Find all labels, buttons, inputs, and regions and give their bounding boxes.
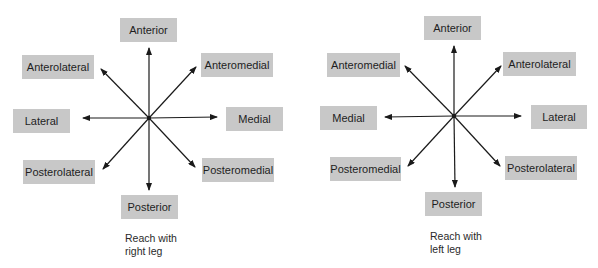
star-excursion-diagram-right-leg: Anterior Anterolateral Anteromedial Late… (0, 0, 299, 268)
label-anteromedial: Anteromedial (201, 53, 273, 77)
label-medial: Medial (320, 106, 377, 130)
arrow-posteromedial (408, 116, 454, 166)
arrow-anterolateral (454, 66, 501, 116)
caption-left-leg: Reach with left leg (430, 230, 482, 256)
caption-right-leg: Reach with right leg (125, 232, 177, 258)
label-posteromedial: Posteromedial (202, 158, 274, 182)
label-lateral: Lateral (531, 105, 587, 129)
caption-line-1: Reach with (125, 232, 177, 245)
label-posterior: Posterior (425, 192, 482, 216)
label-posteromedial: Posteromedial (330, 157, 401, 181)
arrow-anteromedial (405, 66, 454, 116)
arrow-anteromedial (149, 67, 196, 118)
center-point (147, 116, 151, 120)
caption-line-2: right leg (125, 245, 177, 258)
arrow-posterolateral (103, 118, 149, 169)
arrow-medial (149, 117, 217, 118)
arrow-posterolateral (454, 116, 500, 166)
label-posterior: Posterior (121, 195, 178, 219)
label-anterior: Anterior (424, 16, 481, 40)
caption-line-1: Reach with (430, 230, 482, 243)
label-posterolateral: Posterolateral (23, 160, 95, 184)
caption-line-2: left leg (430, 243, 482, 256)
arrow-posterior (454, 116, 455, 187)
label-anterolateral: Anterolateral (22, 55, 94, 79)
label-anteromedial: Anteromedial (327, 53, 400, 77)
center-point (452, 114, 456, 118)
label-anterior: Anterior (120, 18, 177, 42)
star-excursion-diagram-left-leg: Anterior Anteromedial Anterolateral Medi… (299, 0, 598, 268)
label-lateral: Lateral (13, 109, 70, 133)
arrow-anterolateral (101, 69, 149, 118)
label-anterolateral: Anterolateral (503, 52, 576, 76)
label-posterolateral: Posterolateral (505, 156, 577, 180)
label-medial: Medial (226, 107, 283, 131)
arrow-posteromedial (149, 118, 195, 167)
direction-arrows (299, 0, 598, 268)
arrow-medial (385, 116, 454, 117)
